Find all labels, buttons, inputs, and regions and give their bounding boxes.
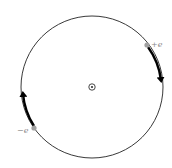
diagram-canvas xyxy=(0,0,172,168)
negative-charge-dot xyxy=(31,125,36,130)
positive-charge-label: +e xyxy=(151,41,162,49)
field-out-of-page-icon xyxy=(89,84,95,90)
positive-charge-dot xyxy=(144,42,149,47)
negative-charge-label: −e xyxy=(17,127,28,135)
